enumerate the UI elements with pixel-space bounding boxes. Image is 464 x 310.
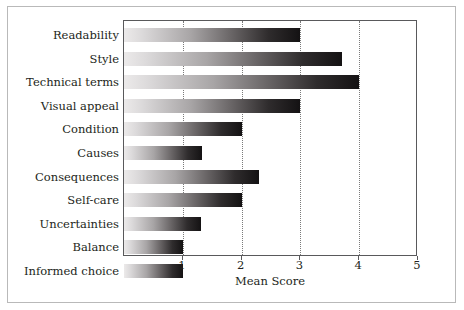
bar-row	[124, 170, 418, 184]
plot-area	[123, 20, 417, 256]
bar	[124, 75, 359, 89]
bar	[124, 193, 242, 207]
category-axis-labels: ReadabilityStyleTechnical termsVisual ap…	[0, 20, 119, 256]
bar	[124, 217, 201, 231]
bar-row	[124, 99, 418, 113]
bar-row	[124, 217, 418, 231]
x-tick-label: 5	[402, 258, 432, 272]
bar	[124, 146, 202, 160]
bar	[124, 122, 242, 136]
x-tick-mark	[241, 256, 242, 260]
x-tick-mark	[299, 256, 300, 260]
bar-row	[124, 28, 418, 42]
category-label: Technical terms	[0, 75, 119, 89]
bar	[124, 240, 183, 254]
bar-series	[124, 21, 416, 255]
bar-row	[124, 193, 418, 207]
category-label: Self-care	[0, 193, 119, 207]
category-label: Uncertainties	[0, 217, 119, 231]
category-label: Condition	[0, 122, 119, 136]
bar-row	[124, 52, 418, 66]
x-tick-label: 2	[226, 258, 256, 272]
x-axis-tick-labels: 12345	[123, 258, 417, 274]
bar-row	[124, 122, 418, 136]
bar	[124, 28, 300, 42]
category-label: Readability	[0, 28, 119, 42]
bar-row	[124, 75, 418, 89]
bar-row	[124, 146, 418, 160]
category-label: Informed choice	[0, 264, 119, 278]
category-label: Balance	[0, 240, 119, 254]
x-tick-mark	[358, 256, 359, 260]
bar	[124, 170, 259, 184]
bar	[124, 99, 300, 113]
x-tick-label: 4	[343, 258, 373, 272]
bar	[124, 52, 342, 66]
x-axis-title: Mean Score	[123, 274, 417, 288]
x-tick-label: 3	[284, 258, 314, 272]
category-label: Visual appeal	[0, 99, 119, 113]
x-tick-label: 1	[167, 258, 197, 272]
x-tick-mark	[417, 256, 418, 260]
bar-row	[124, 240, 418, 254]
horizontal-bar-chart: ReadabilityStyleTechnical termsVisual ap…	[0, 0, 464, 310]
category-label: Consequences	[0, 170, 119, 184]
category-label: Style	[0, 52, 119, 66]
x-tick-mark	[182, 256, 183, 260]
category-label: Causes	[0, 146, 119, 160]
